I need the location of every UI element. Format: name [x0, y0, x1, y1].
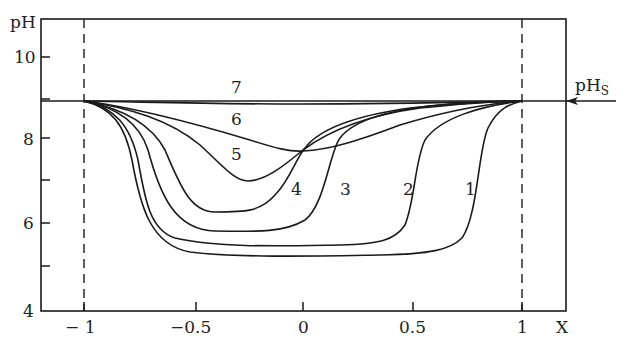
y-axis-label: pH	[10, 12, 36, 32]
curve-1	[84, 101, 522, 256]
x-tick-neg05: −0.5	[170, 317, 211, 337]
phs-label: pHS	[575, 75, 609, 98]
y-tick-4: 4	[23, 301, 34, 321]
chart: pH 10 8 6 4 − 1 −0.5 0 0.5 1 X pHS 7 6 5…	[0, 0, 628, 340]
curve-6	[84, 101, 522, 151]
curve-2	[84, 101, 522, 246]
curve-label-4: 4	[291, 179, 302, 199]
y-tick-10: 10	[14, 47, 36, 67]
x-axis-label: X	[556, 317, 569, 337]
curve-label-7: 7	[231, 77, 242, 97]
y-tick-6: 6	[23, 213, 34, 233]
curve-label-2: 2	[403, 179, 414, 199]
curve-label-6: 6	[231, 109, 242, 129]
x-tick-05: 0.5	[399, 317, 426, 337]
x-tick-1: 1	[517, 317, 528, 337]
x-tick-0: 0	[298, 317, 309, 337]
curves	[84, 101, 522, 256]
plot-frame	[41, 19, 566, 311]
x-axis-ticks	[84, 302, 522, 311]
curve-label-3: 3	[340, 179, 351, 199]
x-tick-neg1: − 1	[65, 317, 95, 337]
y-tick-8: 8	[23, 129, 34, 149]
curve-label-1: 1	[465, 179, 476, 199]
curve-label-5: 5	[231, 144, 242, 164]
y-axis-ticks	[41, 57, 50, 266]
